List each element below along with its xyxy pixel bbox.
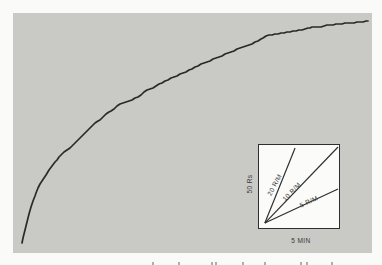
cropped-caption-fragments: [0, 260, 382, 265]
inset-y-scale-label: 50 Rs: [247, 175, 254, 194]
figure: 20 R/M 10 R/M 5 R/M 50 Rs 5 MIN: [0, 0, 382, 265]
inset-x-scale-label: 5 MIN: [291, 238, 310, 245]
